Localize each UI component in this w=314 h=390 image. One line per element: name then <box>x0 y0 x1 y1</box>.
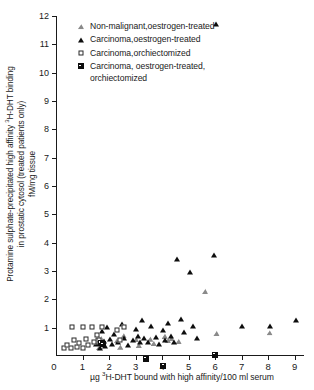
legend-marker-2 <box>76 47 86 58</box>
y-tick-label-6: 6 <box>44 182 49 191</box>
data-point-s3-4 <box>212 352 218 358</box>
x-tick-3 <box>136 355 137 360</box>
y-tick-label-12: 12 <box>39 12 49 21</box>
x-axis-line <box>56 355 304 356</box>
data-point-s1-6 <box>104 325 110 330</box>
data-point-s1-30 <box>178 316 184 321</box>
data-point-s1-34 <box>194 336 200 341</box>
x-tick-8 <box>268 355 269 360</box>
data-point-s1-33 <box>190 324 196 329</box>
x-tick-label-5: 5 <box>186 362 191 372</box>
data-point-s2-3 <box>72 338 77 343</box>
data-point-s1-28 <box>171 339 177 344</box>
data-point-s1-31 <box>181 329 187 334</box>
data-point-s1-13 <box>125 342 131 347</box>
data-point-s2-2 <box>68 345 73 350</box>
y-tick-4 <box>52 243 57 244</box>
data-point-s1-22 <box>153 334 159 339</box>
y-axis-label-line-2: in prostatic cytosol (treated patients o… <box>16 66 27 282</box>
data-point-s1-39 <box>293 317 299 322</box>
data-point-s1-21 <box>148 324 154 329</box>
legend-label-3: Carcinoma, oestrogen-treated, orchiectom… <box>90 60 205 84</box>
y-tick-label-2: 2 <box>44 295 49 304</box>
y-tick-7 <box>52 158 57 159</box>
legend-label-0: Non-malignant,oestrogen-treated <box>90 20 215 32</box>
x-tick-1 <box>83 355 84 360</box>
data-point-s2-8 <box>86 343 91 348</box>
marker-triangle-open <box>78 24 84 30</box>
origin-tick-label: 0 <box>51 362 56 372</box>
x-tick-label-6: 6 <box>212 362 217 372</box>
data-point-s1-23 <box>156 342 162 347</box>
data-point-s1-20 <box>145 339 151 344</box>
data-point-s1-24 <box>160 327 166 332</box>
y-tick-label-3: 3 <box>44 267 49 276</box>
y-tick-label-8: 8 <box>44 125 49 134</box>
data-point-s2-18 <box>121 325 126 330</box>
y-tick-10 <box>52 73 57 74</box>
data-point-s0-5 <box>117 344 123 350</box>
data-point-s1-35 <box>211 252 217 257</box>
y-axis-label-line-3: fM/mg tissue <box>28 66 39 282</box>
y-tick-label-4: 4 <box>44 238 49 247</box>
y-tick-label-1: 1 <box>44 323 49 332</box>
y-axis-label-line-1: Protamine sulphate-precipitated high aff… <box>5 66 16 282</box>
data-point-s1-29 <box>174 257 180 262</box>
data-point-s2-17 <box>118 337 123 342</box>
data-point-s3-2 <box>143 356 149 362</box>
y-tick-9 <box>52 101 57 102</box>
x-tick-label-7: 7 <box>239 362 244 372</box>
data-point-s1-14 <box>130 338 136 343</box>
x-tick-5 <box>189 355 190 360</box>
y-tick-3 <box>52 271 57 272</box>
data-point-s2-15 <box>80 325 85 330</box>
y-tick-label-11: 11 <box>40 40 49 49</box>
legend-item-2: Carcinoma,orchiectomized <box>76 47 215 59</box>
data-point-s0-15 <box>202 289 208 295</box>
x-tick-7 <box>242 355 243 360</box>
y-tick-label-10: 10 <box>39 68 49 77</box>
y-tick-2 <box>52 299 57 300</box>
data-point-s1-32 <box>187 270 193 275</box>
marker-square-filled <box>78 63 84 69</box>
x-axis-label: µg 3H-DHT bound with high affinity/100 m… <box>56 372 308 382</box>
legend-marker-1 <box>76 33 86 44</box>
data-point-s1-18 <box>139 317 145 322</box>
data-point-s2-6 <box>81 345 86 350</box>
x-tick-9 <box>295 355 296 360</box>
legend-item-0: Non-malignant,oestrogen-treated <box>76 20 215 32</box>
data-point-s1-26 <box>165 320 171 325</box>
y-tick-6 <box>52 186 57 187</box>
data-point-s2-11 <box>95 332 100 337</box>
legend-marker-0 <box>76 20 86 31</box>
data-point-s2-7 <box>83 337 88 342</box>
y-tick-5 <box>52 214 57 215</box>
x-tick-label-9: 9 <box>292 362 297 372</box>
y-tick-11 <box>52 44 57 45</box>
legend-label-1: Carcinoma,oestrogen-treated <box>90 33 200 45</box>
data-point-s3-1 <box>100 341 106 347</box>
data-point-s0-17 <box>266 330 272 336</box>
legend: Non-malignant,oestrogen-treatedCarcinoma… <box>76 20 215 85</box>
x-tick-2 <box>109 355 110 360</box>
data-point-s1-37 <box>239 324 245 329</box>
scatter-plot-figure: Protamine sulphate-precipitated high aff… <box>0 0 314 390</box>
y-tick-8 <box>52 129 57 130</box>
legend-label-2: Carcinoma,orchiectomized <box>90 47 191 59</box>
x-tick-label-2: 2 <box>106 362 111 372</box>
legend-marker-3 <box>76 60 86 71</box>
marker-square-open <box>79 51 84 56</box>
y-tick-label-7: 7 <box>44 153 49 162</box>
data-point-s1-27 <box>168 333 174 338</box>
data-point-s0-16 <box>213 331 219 337</box>
y-tick-label-5: 5 <box>44 210 49 219</box>
data-point-s1-16 <box>135 333 141 338</box>
marker-triangle-filled <box>78 37 84 42</box>
x-tick-4 <box>162 355 163 360</box>
data-point-s2-9 <box>89 325 94 330</box>
legend-item-1: Carcinoma,oestrogen-treated <box>76 33 215 45</box>
y-tick-label-9: 9 <box>44 97 49 106</box>
legend-item-3: Carcinoma, oestrogen-treated, orchiectom… <box>76 60 215 84</box>
data-point-s1-8 <box>109 341 115 346</box>
y-tick-12 <box>52 16 57 17</box>
